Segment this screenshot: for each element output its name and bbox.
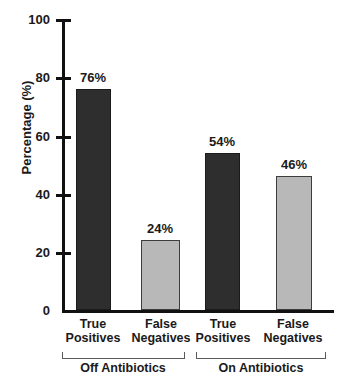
x-axis-line (62, 310, 334, 313)
bar-chart: Percentage (%) 100 80 60 40 20 0 76% 24%… (0, 0, 342, 390)
group-bracket-off-antibiotics (62, 352, 185, 359)
category-label-on-false-negatives: False Negatives (253, 317, 333, 345)
group-label-off-antibiotics: Off Antibiotics (43, 362, 203, 375)
bar-on-antibiotics-false-negatives (276, 176, 312, 310)
category-label-line2: Positives (183, 331, 263, 345)
y-axis-label-40: 40 (10, 188, 50, 201)
y-axis-tick-20 (56, 252, 71, 255)
y-axis-line (62, 20, 65, 312)
bar-value-off-antibiotics-false-negatives: 24% (130, 222, 190, 235)
y-axis-label-20: 20 (10, 246, 50, 259)
bar-value-off-antibiotics-true-positives: 76% (63, 71, 123, 84)
y-axis-tick-100 (56, 19, 71, 22)
y-axis-label-0: 0 (10, 304, 50, 317)
y-axis-tick-60 (56, 136, 71, 139)
category-label-line2: Negatives (253, 331, 333, 345)
group-bracket-on-antibiotics (196, 352, 326, 359)
y-axis-tick-40 (56, 194, 71, 197)
caption-fragment (4, 379, 204, 390)
y-axis-label-60: 60 (10, 130, 50, 143)
bar-on-antibiotics-true-positives (205, 153, 240, 310)
bar-off-antibiotics-true-positives (76, 89, 111, 310)
y-axis-label-100: 100 (10, 13, 50, 26)
category-label-line1: False (253, 317, 333, 331)
y-axis-label-80: 80 (10, 71, 50, 84)
bar-value-on-antibiotics-false-negatives: 46% (264, 158, 324, 171)
category-label-line1: True (183, 317, 263, 331)
bar-value-on-antibiotics-true-positives: 54% (192, 135, 252, 148)
category-label-on-true-positives: True Positives (183, 317, 263, 345)
bar-off-antibiotics-false-negatives (141, 240, 180, 310)
group-label-on-antibiotics: On Antibiotics (181, 362, 341, 375)
